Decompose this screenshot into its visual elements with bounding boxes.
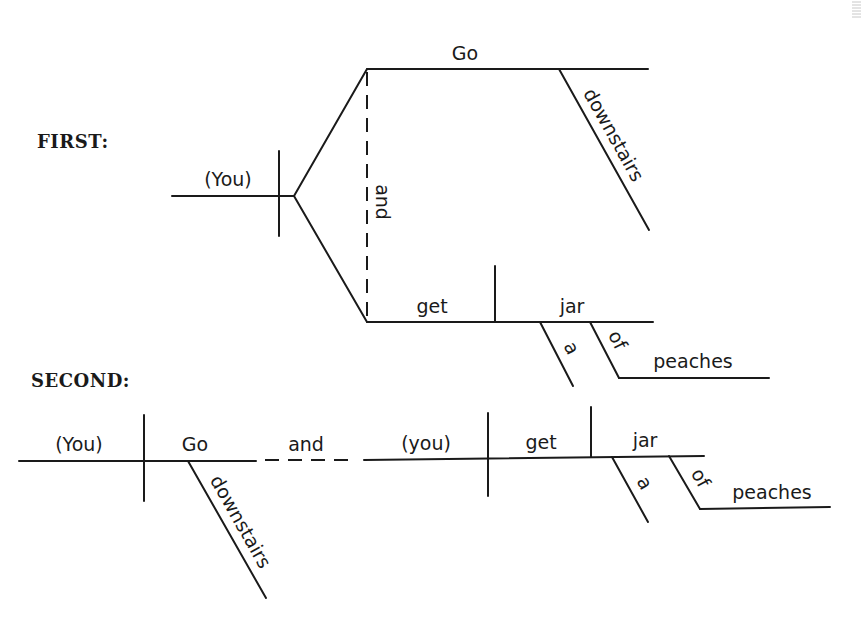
fork-lower <box>294 196 367 322</box>
preposition-object-word: peaches <box>653 350 732 372</box>
clause2-article-word: a <box>633 472 658 493</box>
second-heading: SECOND: <box>31 370 130 391</box>
sentence-diagrams: FIRST: (You) and Go downstairs get jar a… <box>0 0 861 627</box>
clause1-verb-word: Go <box>182 433 208 455</box>
clause1-subject-word: (You) <box>55 433 103 455</box>
second-diagram: SECOND: (You) Go downstairs and (you) ge… <box>19 370 830 598</box>
verb1-modifier-word: downstairs <box>579 84 649 185</box>
article-word: a <box>560 338 585 358</box>
subject-word: (You) <box>204 168 252 190</box>
clause2-subject-word: (you) <box>401 432 451 454</box>
object-word: jar <box>559 295 585 317</box>
first-heading: FIRST: <box>37 131 109 152</box>
first-diagram: FIRST: (You) and Go downstairs get jar a… <box>37 42 769 386</box>
clause2-verb-word: get <box>525 431 556 453</box>
clause2-baseline <box>364 456 704 460</box>
preposition-word: of <box>604 327 633 354</box>
verb2-word: get <box>416 295 447 317</box>
clause2-preposition-word: of <box>687 464 716 492</box>
verb1-word: Go <box>452 42 478 64</box>
page-corner-mark <box>852 2 861 17</box>
clause2-preposition-object-baseline <box>700 507 830 509</box>
conjunction-word: and <box>372 184 394 220</box>
clause2-preposition-object-word: peaches <box>732 481 811 503</box>
conjunction-word: and <box>288 433 324 455</box>
clause1-modifier-word: downstairs <box>206 471 276 572</box>
fork-upper <box>294 69 367 196</box>
clause2-object-word: jar <box>632 429 658 451</box>
